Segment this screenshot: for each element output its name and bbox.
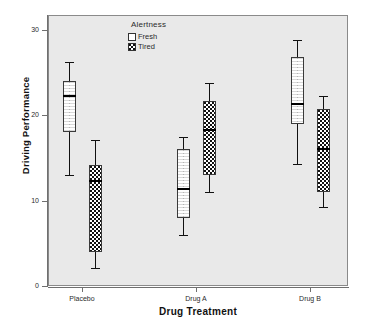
median-line [63, 95, 76, 97]
whisker-lower [297, 124, 298, 164]
legend-item-fresh: Fresh [128, 32, 166, 41]
box-iqr [63, 81, 76, 132]
median-line [317, 148, 330, 150]
whisker-upper [69, 62, 70, 82]
x-axis-title: Drug Treatment [48, 306, 348, 317]
y-axis-title: Driving Performance [20, 41, 31, 211]
y-axis-tick [42, 286, 48, 287]
x-axis-line [48, 287, 349, 288]
box-iqr [89, 165, 102, 252]
whisker-cap-lower [205, 192, 214, 193]
x-axis-tick-label: Drug B [275, 294, 345, 303]
x-axis-tick-label: Drug A [161, 294, 231, 303]
legend-item-tired: Tired [128, 42, 166, 51]
boxplot-chart: 0102030 PlaceboDrug ADrug B Driving Perf… [0, 0, 365, 330]
x-axis-tick [310, 287, 311, 292]
whisker-upper [183, 137, 184, 150]
whisker-cap-upper [293, 40, 302, 41]
median-line [203, 129, 216, 131]
whisker-upper [323, 96, 324, 109]
whisker-lower [69, 132, 70, 175]
median-line [291, 103, 304, 105]
legend: Alertness Fresh Tired [128, 20, 166, 52]
legend-label-fresh: Fresh [138, 32, 157, 41]
whisker-cap-upper [205, 83, 214, 84]
whisker-cap-upper [319, 96, 328, 97]
x-axis-tick [196, 287, 197, 292]
whisker-upper [95, 140, 96, 165]
median-line [177, 188, 190, 190]
legend-label-tired: Tired [138, 42, 155, 51]
whisker-lower [95, 252, 96, 268]
y-axis-tick [42, 201, 48, 202]
whisker-cap-lower [319, 207, 328, 208]
y-axis-tick-label: 30 [0, 26, 39, 34]
x-axis-tick-label: Placebo [47, 294, 117, 303]
box-iqr [291, 57, 304, 124]
whisker-upper [209, 83, 210, 101]
legend-swatch-tired-icon [128, 43, 136, 51]
whisker-lower [209, 175, 210, 192]
whisker-lower [323, 192, 324, 207]
median-line [89, 180, 102, 182]
whisker-cap-lower [293, 164, 302, 165]
x-axis-tick [82, 287, 83, 292]
whisker-cap-lower [179, 235, 188, 236]
y-axis-tick-label: 0 [0, 282, 39, 290]
y-axis-tick [42, 115, 48, 116]
legend-swatch-fresh-icon [128, 33, 136, 41]
y-axis-line [47, 15, 48, 287]
whisker-upper [297, 40, 298, 57]
whisker-lower [183, 218, 184, 235]
y-axis-tick [42, 30, 48, 31]
whisker-cap-lower [91, 268, 100, 269]
whisker-cap-upper [91, 140, 100, 141]
box-iqr [177, 149, 190, 217]
whisker-cap-lower [65, 175, 74, 176]
box-iqr [203, 101, 216, 175]
whisker-cap-upper [179, 137, 188, 138]
whisker-cap-upper [65, 62, 74, 63]
legend-title: Alertness [128, 20, 166, 29]
